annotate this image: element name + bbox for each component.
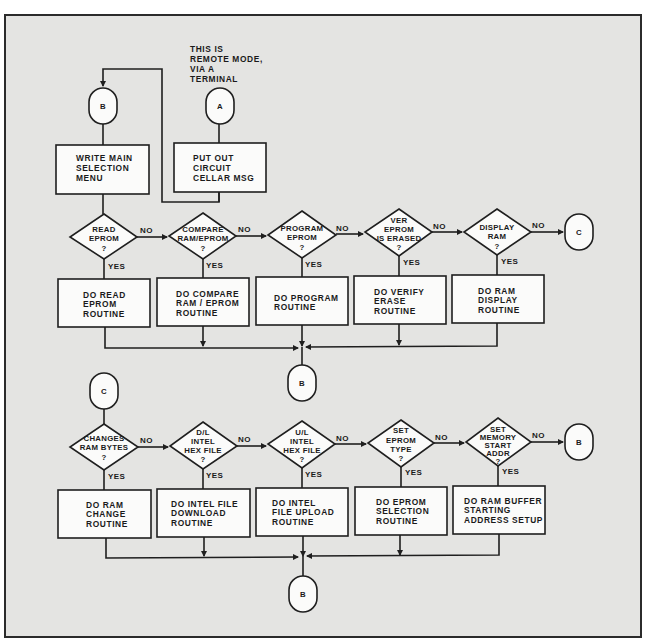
svg-text:FILE UPLOAD: FILE UPLOAD — [272, 507, 334, 517]
no-label: NO — [336, 224, 349, 233]
box-ram-display-routine: DO RAM DISPLAY ROUTINE — [452, 275, 544, 323]
svg-text:ROUTINE: ROUTINE — [272, 517, 314, 527]
svg-text:ADDRESS SETUP: ADDRESS SETUP — [464, 515, 543, 525]
box-ram-change-routine: DO RAM CHANGE ROUTINE — [58, 490, 151, 538]
svg-text:C: C — [576, 228, 582, 237]
yes-label: YES — [206, 471, 223, 480]
box-write-main-menu: WRITE MAIN SELECTION MENU — [56, 145, 149, 194]
svg-text:A: A — [217, 102, 223, 111]
svg-text:HEX FILE: HEX FILE — [283, 446, 321, 455]
no-label: NO — [435, 433, 448, 442]
yes-label: YES — [502, 467, 519, 476]
box-eprom-selection-routine: DO EPROM SELECTION ROUTINE — [355, 487, 447, 535]
svg-text:SET: SET — [393, 426, 409, 435]
yes-label: YES — [108, 472, 125, 481]
svg-text:?: ? — [299, 243, 304, 252]
svg-text:ROUTINE: ROUTINE — [374, 306, 416, 316]
svg-text:DISPLAY: DISPLAY — [479, 223, 515, 232]
svg-text:CHANGE: CHANGE — [86, 509, 126, 519]
note-line: REMOTE MODE, — [190, 54, 263, 64]
connector-b-return-row2: B — [289, 576, 317, 612]
svg-text:ROUTINE: ROUTINE — [274, 302, 316, 312]
flowchart: THIS IS REMOTE MODE, VIA A TERMINAL B A … — [0, 0, 646, 643]
svg-text:EPROM: EPROM — [287, 233, 317, 242]
yes-label: YES — [405, 468, 422, 477]
svg-text:?: ? — [101, 453, 106, 462]
svg-text:HEX FILE: HEX FILE — [184, 446, 222, 455]
svg-text:CELLAR MSG: CELLAR MSG — [193, 173, 254, 183]
svg-text:RAM: RAM — [488, 232, 507, 241]
svg-text:B: B — [299, 379, 305, 388]
svg-text:IS ERASED: IS ERASED — [377, 234, 422, 243]
no-label: NO — [433, 222, 446, 231]
no-label: NO — [532, 221, 545, 230]
svg-text:EPROM: EPROM — [386, 436, 416, 445]
svg-text:B: B — [100, 102, 106, 111]
svg-text:MENU: MENU — [76, 173, 103, 183]
box-intel-download-routine: DO INTEL FILE DOWNLOAD ROUTINE — [157, 489, 250, 537]
svg-text:WRITE MAIN: WRITE MAIN — [76, 153, 133, 163]
svg-text:PROGRAM: PROGRAM — [281, 224, 324, 233]
svg-text:ROUTINE: ROUTINE — [86, 519, 128, 529]
svg-text:B: B — [576, 438, 582, 447]
svg-text:CHANGES: CHANGES — [83, 434, 124, 443]
svg-text:D/L: D/L — [196, 428, 209, 437]
connector-c-entry: C — [90, 373, 118, 409]
svg-text:STARTING: STARTING — [464, 505, 511, 515]
box-ram-buffer-address-setup: DO RAM BUFFER STARTING ADDRESS SETUP — [453, 486, 545, 534]
svg-text:INTEL: INTEL — [191, 437, 215, 446]
svg-text:RAM BYTES: RAM BYTES — [80, 443, 129, 452]
svg-text:?: ? — [396, 243, 401, 252]
box-verify-erase-routine: DO VERIFY ERASE ROUTINE — [354, 276, 446, 324]
no-label: NO — [140, 436, 153, 445]
connector-a-entry: A — [206, 88, 234, 124]
no-label: NO — [238, 225, 251, 234]
svg-text:SELECTION: SELECTION — [376, 506, 429, 516]
yes-label: YES — [403, 258, 420, 267]
no-label: NO — [238, 435, 251, 444]
yes-label: YES — [305, 470, 322, 479]
note-line: THIS IS — [190, 44, 224, 54]
box-program-routine: DO PROGRAM ROUTINE — [256, 277, 348, 325]
svg-text:INTEL: INTEL — [290, 437, 314, 446]
svg-text:?: ? — [200, 455, 205, 464]
svg-text:C: C — [101, 387, 107, 396]
yes-label: YES — [501, 257, 518, 266]
note-line: VIA A — [190, 64, 215, 74]
svg-text:EPROM: EPROM — [89, 234, 119, 243]
svg-text:ERASE: ERASE — [374, 296, 406, 306]
box-intel-upload-routine: DO INTEL FILE UPLOAD ROUTINE — [256, 488, 348, 536]
svg-text:ROUTINE: ROUTINE — [376, 516, 418, 526]
svg-text:TYPE: TYPE — [390, 445, 412, 454]
yes-label: YES — [108, 262, 125, 271]
svg-text:ROUTINE: ROUTINE — [83, 309, 125, 319]
no-label: NO — [336, 434, 349, 443]
svg-text:RAM/EPROM: RAM/EPROM — [177, 234, 228, 243]
svg-text:SELECTION: SELECTION — [76, 163, 129, 173]
svg-text:?: ? — [398, 454, 403, 463]
svg-text:CIRCUIT: CIRCUIT — [193, 163, 231, 173]
svg-text:DOWNLOAD: DOWNLOAD — [171, 508, 226, 518]
svg-text:?: ? — [495, 457, 500, 466]
svg-text:EPROM: EPROM — [83, 299, 117, 309]
svg-text:ROUTINE: ROUTINE — [176, 308, 218, 318]
connector-b-exit-row2: B — [565, 424, 593, 460]
connector-b-return-row1: B — [288, 365, 316, 401]
svg-text:DISPLAY: DISPLAY — [478, 295, 518, 305]
svg-text:U/L: U/L — [295, 428, 308, 437]
svg-text:?: ? — [200, 244, 205, 253]
svg-text:EPROM: EPROM — [384, 225, 414, 234]
note-line: TERMINAL — [190, 74, 238, 84]
box-compare-routine: DO COMPARE RAM / EPROM ROUTINE — [157, 278, 249, 326]
no-label: NO — [140, 226, 153, 235]
box-circuit-cellar-msg: PUT OUT CIRCUIT CELLAR MSG — [174, 143, 266, 192]
no-label: NO — [532, 431, 545, 440]
yes-label: YES — [206, 261, 223, 270]
connector-c-exit: C — [565, 214, 593, 250]
svg-text:PUT OUT: PUT OUT — [193, 153, 234, 163]
connector-b-entry: B — [89, 88, 117, 124]
svg-text:RAM / EPROM: RAM / EPROM — [176, 298, 239, 308]
svg-text:ROUTINE: ROUTINE — [171, 518, 213, 528]
svg-text:READ: READ — [92, 225, 115, 234]
svg-text:VER: VER — [391, 216, 408, 225]
